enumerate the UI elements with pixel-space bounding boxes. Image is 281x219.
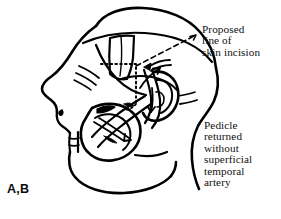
- posterior-tick-1: [180, 100, 197, 104]
- mouth-band-1: [69, 138, 79, 139]
- figure-page: Proposed line of skin incision Pedicle r…: [0, 0, 281, 219]
- neck-back-curve: [171, 162, 176, 176]
- mouth-column-left: [69, 133, 70, 152]
- forehead-profile: [42, 26, 96, 112]
- oval-shading-tab: [97, 106, 115, 113]
- caption-remnant: [30, 211, 270, 219]
- figure-label: A,B: [7, 182, 29, 196]
- nose-profile: [57, 112, 70, 133]
- mouth-band-2: [69, 145, 79, 146]
- lower-rear-contour: [135, 152, 167, 156]
- nostril: [59, 110, 63, 115]
- posterior-tick-2: [178, 92, 195, 96]
- raised-flap-fold: [120, 36, 122, 76]
- annotation-pedicle-line-6: artery: [204, 177, 252, 188]
- annotation-pedicle-note: Pedicle returned without superficial tem…: [204, 120, 252, 188]
- annotation-incision-line-3: skin incision: [202, 47, 260, 58]
- brow-hatch-3: [74, 80, 91, 90]
- proposed-incision-dashed-line: [136, 35, 196, 66]
- annotation-proposed-incision: Proposed line of skin incision: [202, 24, 260, 58]
- annotation-pedicle-line-4: superficial: [204, 154, 252, 165]
